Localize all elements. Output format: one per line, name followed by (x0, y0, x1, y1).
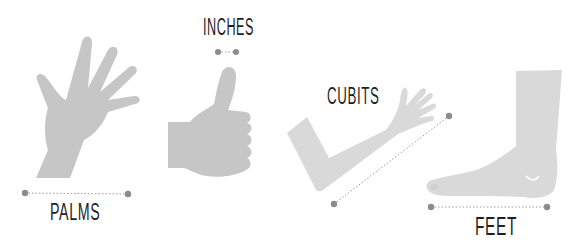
feet-label: FEET (475, 214, 517, 239)
feet-measure (428, 204, 550, 210)
palms-measure (22, 190, 131, 197)
palms-start-dot (22, 190, 28, 196)
inches-label: INCHES (203, 16, 254, 39)
inches-start-dot (215, 49, 221, 55)
cubits-start-dot (331, 201, 337, 207)
foot-icon (426, 70, 562, 198)
feet-start-dot (428, 204, 434, 210)
palms-label: PALMS (50, 201, 100, 224)
open-hand-icon (36, 37, 140, 178)
inches-measure (215, 49, 239, 55)
big-toe-nail (430, 184, 438, 190)
cubits-label: CUBITS (327, 85, 379, 108)
units-diagram: PALMS INCHES CUBITS FEET (0, 0, 573, 250)
thumbs-up-icon (168, 67, 252, 177)
feet-end-dot (544, 204, 550, 210)
cubits-end-dot (446, 113, 452, 119)
inches-end-dot (233, 49, 239, 55)
palms-end-dot (125, 191, 131, 197)
